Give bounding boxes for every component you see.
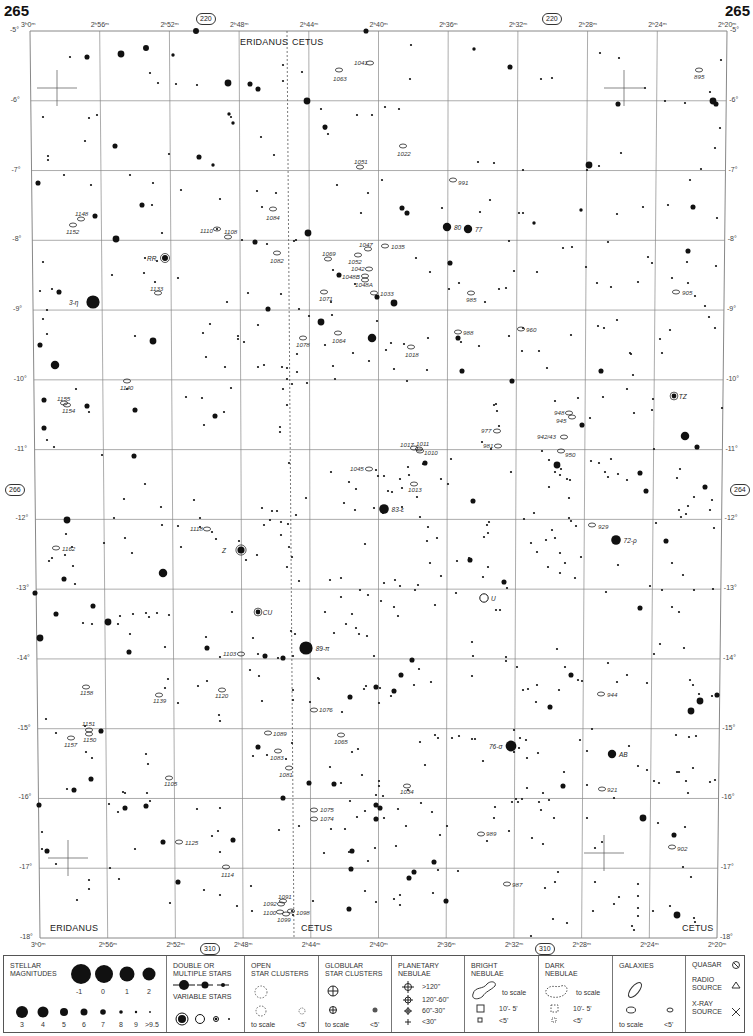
galaxy-1078[interactable] <box>299 336 306 340</box>
galaxy-1125[interactable] <box>175 840 182 844</box>
galaxy-1082[interactable] <box>273 251 280 255</box>
star <box>551 77 553 79</box>
star <box>687 282 689 284</box>
named-star-83-ε[interactable] <box>379 504 389 514</box>
galaxy-1045[interactable] <box>365 467 372 471</box>
galaxy-1103[interactable] <box>237 652 244 656</box>
named-star-AB[interactable] <box>608 750 616 758</box>
galaxy-895[interactable] <box>695 68 702 72</box>
galaxy-label: 1110 <box>200 227 213 234</box>
galaxy-1052[interactable] <box>354 253 361 257</box>
galaxy-1157[interactable] <box>67 736 74 740</box>
galaxy-942/43[interactable] <box>560 435 567 439</box>
galaxy-1118[interactable] <box>203 527 210 531</box>
galaxy-1048B[interactable] <box>361 274 368 278</box>
star <box>646 682 648 684</box>
galaxy-label: 1157 <box>64 741 78 748</box>
named-star-77[interactable] <box>464 225 472 233</box>
galaxy-929[interactable] <box>588 523 595 527</box>
adjacent-chart-bottom-right-link[interactable]: 310 <box>535 943 555 955</box>
galaxy-1084[interactable] <box>269 207 276 211</box>
galaxy-1033[interactable] <box>370 291 377 295</box>
named-star-3-η[interactable] <box>86 295 99 308</box>
star <box>664 100 666 102</box>
galaxy-902[interactable] <box>668 845 675 849</box>
galaxy-981[interactable] <box>494 444 501 448</box>
star <box>296 371 298 373</box>
galaxy-987[interactable] <box>503 882 510 886</box>
galaxy-977[interactable] <box>493 429 500 433</box>
galaxy-label: 1114 <box>221 871 234 878</box>
galaxy-1074[interactable] <box>310 817 317 821</box>
star <box>637 895 639 897</box>
galaxy-label: 1018 <box>405 351 419 358</box>
galaxy-1071[interactable] <box>320 290 327 294</box>
named-star-89-π[interactable] <box>299 641 312 654</box>
star <box>318 678 320 680</box>
galaxy-1051[interactable] <box>356 165 363 169</box>
star <box>333 632 335 634</box>
dec-tick-label: -7° <box>728 166 737 173</box>
star <box>340 596 342 598</box>
star <box>564 562 566 564</box>
star <box>488 521 490 523</box>
named-star-80[interactable] <box>443 223 451 231</box>
star <box>585 266 587 268</box>
galaxy-1063[interactable] <box>335 68 342 72</box>
star <box>542 843 544 845</box>
galaxy-985[interactable] <box>467 291 474 295</box>
galaxy-1075[interactable] <box>310 808 317 812</box>
legend-dark-nebulae: DARK NEBULAE to scale 10'- 5' <5' <box>538 956 612 1032</box>
star <box>541 450 543 452</box>
adjacent-chart-bottom-link[interactable]: 310 <box>200 943 220 955</box>
galaxy-1108[interactable] <box>224 235 231 239</box>
star <box>332 269 334 271</box>
star <box>607 476 609 478</box>
galaxy-991[interactable] <box>449 178 456 182</box>
galaxy-1018[interactable] <box>407 345 414 349</box>
galaxy-1162[interactable] <box>52 546 59 550</box>
star <box>640 815 647 822</box>
named-star-RR[interactable] <box>162 255 168 261</box>
galaxy-label: 985 <box>466 296 477 303</box>
galaxy-988[interactable] <box>454 330 461 334</box>
galaxy-945[interactable] <box>568 415 575 419</box>
galaxy-1035[interactable] <box>381 244 388 248</box>
galaxy-1148[interactable] <box>77 217 84 221</box>
galaxy-1083[interactable] <box>274 749 281 753</box>
constellation-label-cetus-top: CETUS <box>292 37 324 47</box>
named-star-72-ρ[interactable] <box>611 535 621 545</box>
galaxy-1089[interactable] <box>264 731 271 735</box>
adjacent-chart-left-link[interactable]: 266 <box>5 484 25 496</box>
galaxy-1064[interactable] <box>334 331 341 335</box>
galaxy-1069[interactable] <box>324 257 331 261</box>
galaxy-1022[interactable] <box>399 144 406 148</box>
star <box>124 792 126 794</box>
adjacent-chart-right-link[interactable]: 264 <box>730 484 750 496</box>
star <box>508 830 510 832</box>
galaxy-921[interactable] <box>598 787 605 791</box>
star <box>693 589 695 591</box>
galaxy-960[interactable] <box>517 327 524 331</box>
named-star-76-σ[interactable] <box>506 741 517 752</box>
galaxy-989[interactable] <box>477 832 484 836</box>
galaxy-1152[interactable] <box>69 223 76 227</box>
galaxy-1065[interactable] <box>337 733 344 737</box>
named-star-TZ[interactable] <box>672 394 677 399</box>
galaxy-1076[interactable] <box>310 708 317 712</box>
named-star-Z[interactable] <box>237 546 244 553</box>
named-star-CU[interactable] <box>256 610 261 615</box>
galaxy-905[interactable] <box>672 290 679 294</box>
variable-star-U[interactable] <box>480 594 488 602</box>
adjacent-chart-top-right-link[interactable]: 220 <box>542 13 562 25</box>
galaxy-1042[interactable] <box>365 267 372 271</box>
star <box>586 169 588 171</box>
galaxy-948[interactable] <box>565 411 572 415</box>
star <box>431 859 436 864</box>
galaxy-1081[interactable] <box>285 766 292 770</box>
galaxy-label: 1098 <box>296 909 310 916</box>
star <box>55 732 57 734</box>
galaxy-944[interactable] <box>597 692 604 696</box>
star <box>197 685 199 687</box>
adjacent-chart-top-link[interactable]: 220 <box>196 13 216 25</box>
